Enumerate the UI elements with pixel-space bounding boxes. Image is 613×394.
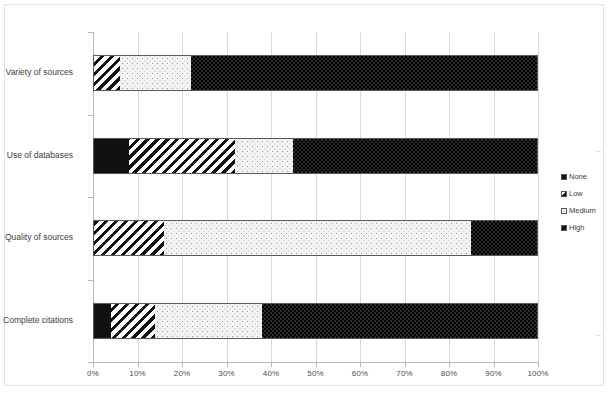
x-tick-label-10: 10% — [118, 369, 158, 378]
bar-segment-none[interactable] — [93, 138, 129, 174]
x-tick-label-30: 30% — [207, 369, 247, 378]
legend-item-medium[interactable]: Medium — [561, 202, 613, 219]
bar-row[interactable] — [93, 138, 538, 174]
legend-label-none: None — [569, 172, 587, 181]
x-tick-label-60: 60% — [340, 369, 380, 378]
legend-label-low: Low — [569, 189, 583, 198]
x-tick-label-40: 40% — [251, 369, 291, 378]
bar-segment-low[interactable] — [93, 220, 164, 256]
x-tick-mark-80 — [449, 362, 450, 367]
chart-legend: NoneLowMediumHigh — [561, 168, 613, 236]
category-label-variety-of-sources: Variety of sources — [0, 67, 73, 77]
bar-segment-medium[interactable] — [155, 303, 262, 339]
bar-segment-none[interactable] — [93, 303, 111, 339]
category-label-use-of-databases: Use of databases — [0, 150, 73, 160]
x-tick-mark-100 — [538, 362, 539, 367]
y-tick-mark — [88, 32, 93, 33]
x-tick-mark-30 — [227, 362, 228, 367]
x-tick-mark-20 — [182, 362, 183, 367]
bar-segment-medium[interactable] — [164, 220, 471, 256]
bar-segment-high[interactable] — [191, 55, 538, 91]
x-tick-label-20: 20% — [162, 369, 202, 378]
legend-tick-bottom — [596, 335, 601, 336]
bar-segment-low[interactable] — [129, 138, 236, 174]
bar-segment-medium[interactable] — [235, 138, 293, 174]
x-tick-mark-50 — [316, 362, 317, 367]
x-tick-label-50: 50% — [296, 369, 336, 378]
legend-item-none[interactable]: None — [561, 168, 613, 185]
y-tick-mark — [88, 197, 93, 198]
plot-area — [93, 32, 538, 362]
gridline-100 — [538, 32, 539, 362]
category-label-complete-citations: Complete citations — [0, 315, 73, 325]
legend-swatch-none — [561, 174, 567, 180]
bar-segment-high[interactable] — [262, 303, 538, 339]
x-tick-mark-10 — [138, 362, 139, 367]
x-tick-mark-90 — [494, 362, 495, 367]
x-tick-mark-40 — [271, 362, 272, 367]
x-tick-label-100: 100% — [518, 369, 558, 378]
x-tick-label-90: 90% — [474, 369, 514, 378]
bar-row[interactable] — [93, 220, 538, 256]
x-tick-mark-0 — [93, 362, 94, 367]
bar-segment-low[interactable] — [111, 303, 156, 339]
bar-row[interactable] — [93, 303, 538, 339]
chart-frame: 0%10%20%30%40%50%60%70%80%90%100% Variet… — [4, 4, 604, 386]
legend-label-medium: Medium — [569, 206, 596, 215]
legend-swatch-medium — [561, 208, 567, 214]
bar-row[interactable] — [93, 55, 538, 91]
x-tick-label-0: 0% — [73, 369, 113, 378]
legend-tick-top — [596, 151, 601, 152]
y-tick-mark — [88, 115, 93, 116]
x-tick-mark-70 — [405, 362, 406, 367]
x-tick-label-80: 80% — [429, 369, 469, 378]
legend-label-high: High — [569, 223, 584, 232]
x-tick-label-70: 70% — [385, 369, 425, 378]
bar-segment-medium[interactable] — [120, 55, 191, 91]
y-tick-mark — [88, 280, 93, 281]
bar-segment-low[interactable] — [93, 55, 120, 91]
legend-swatch-low — [561, 191, 567, 197]
bar-segment-high[interactable] — [293, 138, 538, 174]
legend-item-low[interactable]: Low — [561, 185, 613, 202]
legend-item-high[interactable]: High — [561, 219, 613, 236]
y-tick-mark — [88, 362, 93, 363]
bar-segment-high[interactable] — [471, 220, 538, 256]
x-tick-mark-60 — [360, 362, 361, 367]
category-label-quality-of-sources: Quality of sources — [0, 232, 73, 242]
legend-swatch-high — [561, 225, 567, 231]
